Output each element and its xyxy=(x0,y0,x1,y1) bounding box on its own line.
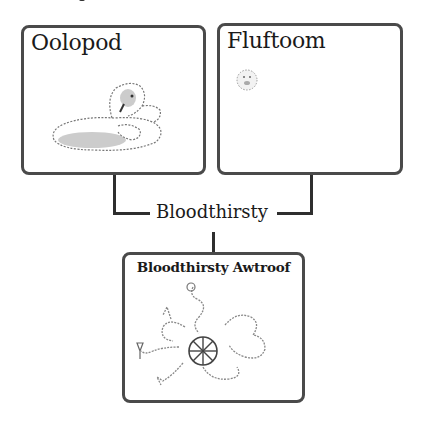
parent-card-fluftoom: Fluftoom xyxy=(217,23,403,175)
parent-name: Oolopod xyxy=(31,30,122,55)
result-name: Bloodthirsty Awtroof xyxy=(125,259,302,275)
cropped-text-fragment xyxy=(79,0,85,1)
connector-center-vertical xyxy=(212,232,215,253)
parent-name: Fluftoom xyxy=(227,28,325,53)
parent-card-oolopod: Oolopod xyxy=(21,25,206,175)
oolopod-illustration-icon xyxy=(44,78,174,158)
awtroof-illustration-icon xyxy=(133,281,293,396)
connector-right-vertical xyxy=(310,175,313,215)
connector-left-horizontal xyxy=(113,212,150,215)
fluftoom-illustration-icon xyxy=(234,67,260,93)
combination-label: Bloodthirsty xyxy=(156,201,268,222)
connector-right-horizontal xyxy=(277,212,313,215)
result-card: Bloodthirsty Awtroof xyxy=(122,252,305,403)
connector-left-vertical xyxy=(113,175,116,215)
